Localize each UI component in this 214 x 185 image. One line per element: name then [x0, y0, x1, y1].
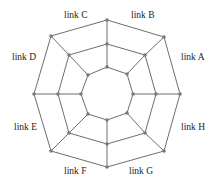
label-link-d: link D: [12, 52, 36, 62]
label-link-b: link B: [131, 10, 155, 20]
outer-node: [178, 92, 182, 96]
label-link-f: link F: [64, 166, 86, 176]
outer-node: [162, 35, 166, 39]
middle-node: [67, 131, 71, 135]
outer-node: [49, 34, 53, 38]
octagon-network-diagram: link A link B link C link D link E link …: [0, 0, 214, 185]
inner-node: [125, 72, 129, 76]
label-link-h: link H: [181, 122, 205, 132]
label-link-g: link G: [129, 166, 153, 176]
spoke: [69, 55, 88, 75]
inner-node: [86, 112, 90, 116]
middle-node: [105, 142, 109, 146]
spoke: [51, 133, 69, 151]
inner-node: [79, 92, 83, 96]
outer-node: [49, 149, 53, 153]
outer-node: [105, 18, 109, 22]
spoke: [145, 37, 164, 55]
middle-node: [56, 92, 60, 96]
inner-node: [105, 118, 109, 122]
inner-node: [105, 65, 109, 69]
middle-node: [143, 131, 147, 135]
spoke: [127, 55, 145, 74]
labels: link A link B link C link D link E link …: [12, 10, 205, 176]
inner-node: [131, 92, 135, 96]
middle-node: [143, 53, 147, 57]
spoke: [69, 114, 88, 133]
outer-node: [162, 149, 166, 153]
label-link-a: link A: [181, 52, 205, 62]
inner-node: [86, 73, 90, 77]
outer-node: [32, 92, 36, 96]
spoke: [145, 133, 164, 151]
label-link-c: link C: [64, 10, 88, 20]
inner-node: [125, 111, 129, 115]
spoke: [51, 36, 69, 55]
middle-node: [67, 53, 71, 57]
middle-node: [105, 42, 109, 46]
middle-node: [154, 92, 158, 96]
spoke: [127, 113, 145, 133]
outer-node: [105, 165, 109, 169]
label-link-e: link E: [14, 122, 37, 132]
